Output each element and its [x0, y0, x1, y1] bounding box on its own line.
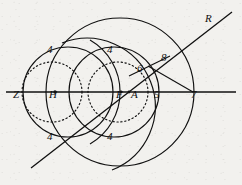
label-arc-intersection-upper-right: 4 [107, 44, 113, 55]
arc-upper-sweep-left [62, 38, 155, 170]
label-arc-intersection-lower-left: 4 [47, 131, 53, 142]
label-measure-7: 7 [191, 89, 197, 100]
label-measure-6: 6 [137, 63, 143, 74]
label-measure-5: 5 [154, 89, 160, 100]
geometric-figure-canvas: Z H F A R 5 6 7 8 4 4 4 4 [0, 0, 242, 185]
label-arc-intersection-lower-right: 4 [107, 131, 113, 142]
label-point-F: F [116, 89, 123, 100]
label-point-H: H [49, 89, 57, 100]
label-point-R: R [205, 13, 212, 24]
label-measure-8: 8 [161, 52, 167, 63]
point-A [128, 91, 131, 94]
label-point-Z: Z [13, 89, 19, 100]
label-arc-intersection-upper-left: 4 [47, 44, 53, 55]
label-point-A: A [131, 89, 138, 100]
